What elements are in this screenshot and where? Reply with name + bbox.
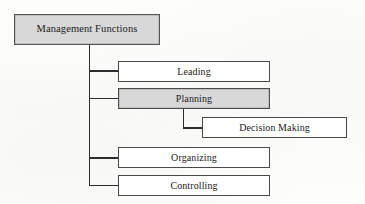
diagram-canvas: Management Functions Leading Planning De… bbox=[0, 0, 365, 204]
node-label-planning: Planning bbox=[176, 94, 212, 104]
connector-controlling bbox=[89, 185, 119, 187]
node-label-management-functions: Management Functions bbox=[37, 24, 138, 35]
connector-organizing bbox=[89, 157, 119, 159]
connector-decision-making-horizontal bbox=[183, 127, 203, 129]
connector-leading bbox=[89, 70, 119, 72]
node-leading[interactable]: Leading bbox=[118, 61, 270, 82]
node-planning[interactable]: Planning bbox=[118, 88, 270, 109]
node-label-decision-making: Decision Making bbox=[239, 123, 310, 133]
node-label-controlling: Controlling bbox=[170, 181, 217, 191]
node-organizing[interactable]: Organizing bbox=[118, 147, 270, 168]
node-label-organizing: Organizing bbox=[171, 153, 217, 163]
node-label-leading: Leading bbox=[177, 67, 210, 77]
connector-decision-making-vertical bbox=[183, 109, 185, 128]
node-decision-making[interactable]: Decision Making bbox=[202, 117, 347, 138]
node-management-functions[interactable]: Management Functions bbox=[14, 14, 160, 45]
node-controlling[interactable]: Controlling bbox=[118, 175, 270, 196]
trunk-connector-line bbox=[89, 45, 91, 186]
connector-planning bbox=[89, 98, 119, 100]
